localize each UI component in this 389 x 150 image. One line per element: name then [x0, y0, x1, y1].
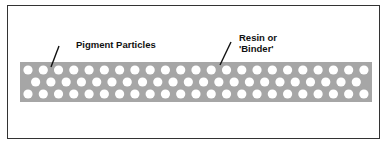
- pigment-particle: [161, 89, 170, 98]
- pigment-particle: [222, 65, 231, 74]
- pigment-particle: [252, 65, 261, 74]
- pigment-particle: [146, 65, 155, 74]
- pigment-particle: [69, 65, 78, 74]
- pigment-particle: [39, 65, 48, 74]
- pigment-particle: [176, 89, 185, 98]
- pigment-particle: [153, 77, 162, 86]
- resin-label: Resin or 'Binder': [239, 32, 277, 54]
- resin-label-line1: Resin or: [239, 32, 277, 43]
- pigment-particle: [291, 77, 300, 86]
- pigment-particle: [237, 89, 246, 98]
- pigment-particle: [184, 77, 193, 86]
- pigment-particle: [84, 65, 93, 74]
- pigment-particle: [214, 77, 223, 86]
- pigment-particle: [329, 89, 338, 98]
- pigment-particle: [199, 77, 208, 86]
- pigment-particle: [100, 65, 109, 74]
- pigment-particle: [222, 89, 231, 98]
- pigment-particle: [245, 77, 254, 86]
- pigment-particle: [283, 89, 292, 98]
- pigment-particle: [321, 77, 330, 86]
- pigment-particle: [31, 77, 40, 86]
- pigment-particle: [123, 77, 132, 86]
- pigment-particle: [161, 65, 170, 74]
- pigment-particle: [107, 77, 116, 86]
- pigment-particle: [314, 65, 323, 74]
- pigment-particle: [115, 65, 124, 74]
- pigment-particle: [130, 65, 139, 74]
- pigment-particle: [275, 77, 284, 86]
- pigment-particle: [230, 77, 239, 86]
- resin-leader-line: [220, 42, 231, 65]
- pigment-particle: [92, 77, 101, 86]
- pigment-particle: [23, 65, 32, 74]
- resin-label-line2: 'Binder': [239, 43, 277, 54]
- pigment-particle: [77, 77, 86, 86]
- pigment-particle: [146, 89, 155, 98]
- pigment-particle: [314, 89, 323, 98]
- pigment-particle: [298, 65, 307, 74]
- pigment-particle: [84, 89, 93, 98]
- pigment-particle: [115, 89, 124, 98]
- pigment-particle: [23, 89, 32, 98]
- pigment-particle: [329, 65, 338, 74]
- pigment-particle: [344, 89, 353, 98]
- pigment-particle: [191, 89, 200, 98]
- paint-film-diagram: [0, 0, 389, 150]
- pigment-particle: [252, 89, 261, 98]
- pigment-particle: [176, 65, 185, 74]
- pigment-particle: [344, 65, 353, 74]
- pigment-particle: [237, 65, 246, 74]
- pigment-particle: [336, 77, 345, 86]
- pigment-particle: [268, 65, 277, 74]
- pigment-particle: [359, 65, 368, 74]
- pigment-particle: [207, 65, 216, 74]
- pigment-particle: [207, 89, 216, 98]
- pigment-particle: [359, 89, 368, 98]
- pigment-particle: [46, 77, 55, 86]
- pigment-particles-label: Pigment Particles: [76, 39, 156, 50]
- pigment-particle: [62, 77, 71, 86]
- pigment-particle: [39, 89, 48, 98]
- pigment-particle: [298, 89, 307, 98]
- pigment-particle: [283, 65, 292, 74]
- pigment-particle: [268, 89, 277, 98]
- pigment-particle: [100, 89, 109, 98]
- pigment-particle: [138, 77, 147, 86]
- pigment-particle: [352, 77, 361, 86]
- pigment-particle: [130, 89, 139, 98]
- pigment-particle: [54, 65, 63, 74]
- pigment-particle: [168, 77, 177, 86]
- pigment-particle: [69, 89, 78, 98]
- pigment-particle: [306, 77, 315, 86]
- pigment-particle: [260, 77, 269, 86]
- pigment-particle: [54, 89, 63, 98]
- pigment-particle: [191, 65, 200, 74]
